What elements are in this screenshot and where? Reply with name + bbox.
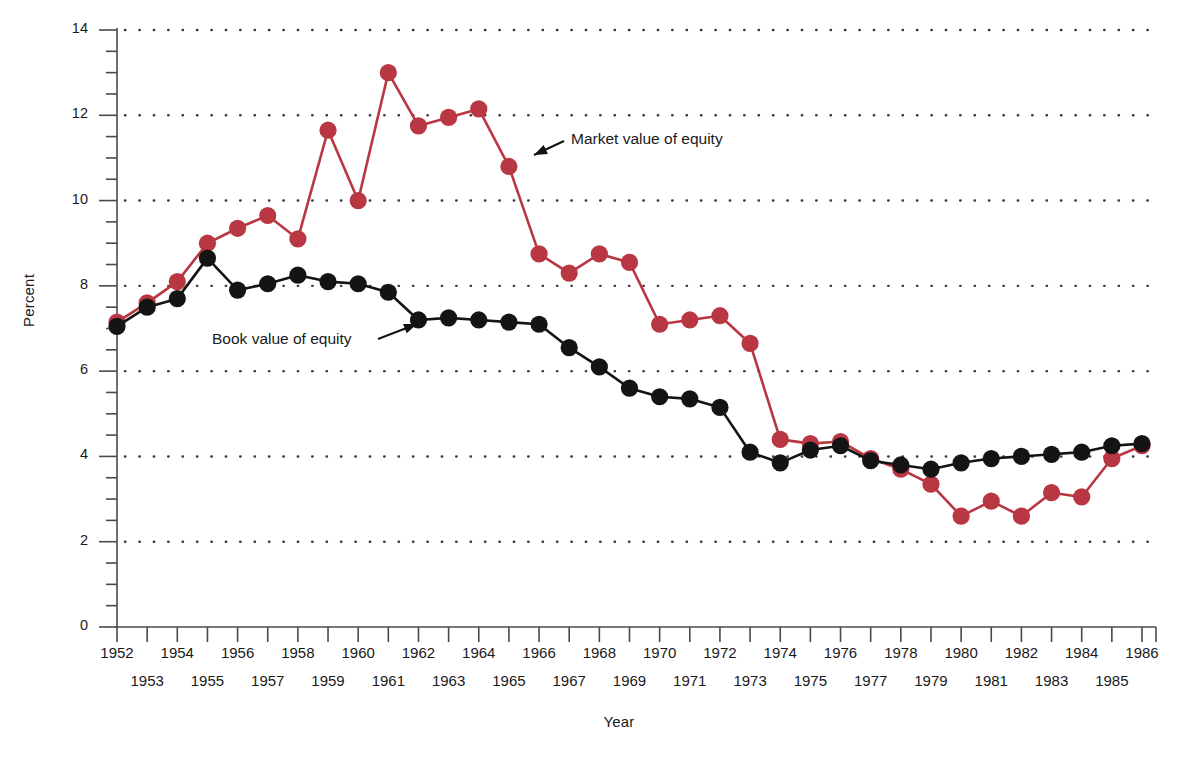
data-point (651, 388, 668, 405)
data-point (832, 437, 849, 454)
x-tick-label: 1977 (848, 672, 894, 689)
x-tick-label: 1975 (787, 672, 833, 689)
x-tick-label: 1981 (968, 672, 1014, 689)
data-point (350, 192, 367, 209)
data-point (108, 318, 125, 335)
data-point (741, 335, 758, 352)
data-point (621, 254, 638, 271)
y-tick-label: 6 (40, 361, 88, 377)
data-point (470, 100, 487, 117)
x-axis-ticks (117, 627, 1156, 642)
data-point (953, 508, 970, 525)
x-tick-label: 1968 (576, 644, 622, 661)
data-point (741, 444, 758, 461)
x-tick-label: 1983 (1029, 672, 1075, 689)
data-point (651, 316, 668, 333)
data-point (380, 284, 397, 301)
x-tick-label: 1972 (697, 644, 743, 661)
data-point (892, 456, 909, 473)
data-point (1043, 446, 1060, 463)
x-tick-label: 1974 (757, 644, 803, 661)
x-tick-label: 1984 (1059, 644, 1105, 661)
x-tick-label: 1960 (335, 644, 381, 661)
data-point (289, 267, 306, 284)
x-tick-label: 1976 (818, 644, 864, 661)
data-point (319, 273, 336, 290)
y-tick-label: 0 (40, 617, 88, 633)
x-tick-label: 1952 (94, 644, 140, 661)
data-point (1013, 448, 1030, 465)
data-point (802, 441, 819, 458)
data-point (259, 207, 276, 224)
data-point (711, 399, 728, 416)
data-point (440, 109, 457, 126)
y-axis-title: Percent (20, 251, 37, 351)
data-point (922, 476, 939, 493)
data-point (229, 282, 246, 299)
x-tick-label: 1953 (124, 672, 170, 689)
data-point (1103, 437, 1120, 454)
x-tick-label: 1957 (245, 672, 291, 689)
data-point (1013, 508, 1030, 525)
x-tick-label: 1965 (486, 672, 532, 689)
data-point (530, 316, 547, 333)
data-point (289, 230, 306, 247)
data-point (561, 339, 578, 356)
x-tick-label: 1985 (1089, 672, 1135, 689)
data-point (953, 454, 970, 471)
data-point (711, 307, 728, 324)
x-tick-label: 1971 (667, 672, 713, 689)
data-point (561, 264, 578, 281)
data-point (772, 431, 789, 448)
x-tick-label: 1967 (546, 672, 592, 689)
x-tick-label: 1958 (275, 644, 321, 661)
data-point (440, 309, 457, 326)
data-point (500, 158, 517, 175)
x-tick-label: 1980 (938, 644, 984, 661)
y-tick-label: 2 (40, 532, 88, 548)
y-tick-label: 4 (40, 446, 88, 462)
y-tick-label: 10 (40, 191, 88, 207)
data-point (862, 452, 879, 469)
data-point (1073, 488, 1090, 505)
data-point (259, 275, 276, 292)
x-tick-label: 1982 (998, 644, 1044, 661)
data-point (350, 275, 367, 292)
data-point (319, 122, 336, 139)
y-tick-label: 14 (40, 20, 88, 36)
axis-spines (115, 28, 1156, 627)
x-tick-label: 1954 (154, 644, 200, 661)
x-tick-label: 1955 (184, 672, 230, 689)
data-point (139, 299, 156, 316)
y-tick-label: 12 (40, 105, 88, 121)
data-point (681, 390, 698, 407)
x-tick-label: 1978 (878, 644, 924, 661)
data-point (591, 245, 608, 262)
data-series-book-value (108, 250, 1150, 478)
data-point (470, 311, 487, 328)
x-tick-label: 1970 (637, 644, 683, 661)
x-tick-label: 1964 (456, 644, 502, 661)
data-point (199, 250, 216, 267)
data-point (591, 358, 608, 375)
x-tick-label: 1959 (305, 672, 351, 689)
data-point (922, 461, 939, 478)
data-point (500, 314, 517, 331)
x-tick-label: 1973 (727, 672, 773, 689)
x-tick-label: 1961 (365, 672, 411, 689)
data-point (380, 64, 397, 81)
annotation-market-value: Market value of equity (571, 130, 723, 148)
data-point (229, 220, 246, 237)
data-point (772, 454, 789, 471)
data-point (1043, 484, 1060, 501)
data-point (681, 311, 698, 328)
y-tick-label: 8 (40, 276, 88, 292)
x-tick-label: 1962 (395, 644, 441, 661)
x-tick-label: 1969 (607, 672, 653, 689)
x-tick-label: 1956 (215, 644, 261, 661)
data-point (621, 380, 638, 397)
x-axis-title: Year (559, 713, 679, 730)
x-tick-label: 1966 (516, 644, 562, 661)
x-tick-label: 1986 (1119, 644, 1165, 661)
data-point (169, 273, 186, 290)
